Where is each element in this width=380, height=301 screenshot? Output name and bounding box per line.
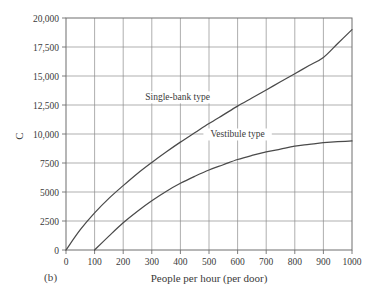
- x-tick-label: 400: [173, 257, 188, 267]
- chart-svg: 025005000750010,00012,50015,00017,50020,…: [0, 0, 380, 301]
- y-tick-label: 5000: [40, 188, 59, 198]
- y-tick-labels: 025005000750010,00012,50015,00017,50020,…: [33, 14, 59, 256]
- y-tick-label: 10,000: [33, 130, 59, 140]
- x-tick-label: 500: [202, 257, 217, 267]
- data-curve: [95, 141, 352, 250]
- curve-annotation-label: Vestibule type: [211, 129, 265, 139]
- y-tick-label: 20,000: [33, 14, 59, 24]
- y-tick-label: 17,500: [33, 43, 59, 53]
- x-tick-label: 700: [259, 257, 274, 267]
- x-tick-label: 800: [288, 257, 303, 267]
- y-tick-label: 15,000: [33, 72, 59, 82]
- x-tick-label: 200: [116, 257, 131, 267]
- x-tick-label: 1000: [343, 257, 362, 267]
- y-axis-title: C: [13, 125, 25, 147]
- x-axis-title: People per hour (per door): [66, 272, 352, 284]
- x-tick-label: 100: [87, 257, 102, 267]
- y-tick-label: 2500: [40, 217, 59, 227]
- y-tick-label: 0: [54, 246, 59, 256]
- y-tick-label: 12,500: [33, 101, 59, 111]
- panel-label: (b): [44, 271, 57, 283]
- x-tick-label: 900: [316, 257, 331, 267]
- figure-container: 025005000750010,00012,50015,00017,50020,…: [0, 0, 380, 301]
- x-tick-label: 0: [64, 257, 69, 267]
- x-tick-labels: 01002003004005006007008009001000: [64, 257, 362, 267]
- x-tick-label: 300: [145, 257, 160, 267]
- curve-annotation-label: Single-bank type: [145, 92, 210, 102]
- y-tick-label: 7500: [40, 159, 59, 169]
- x-tick-label: 600: [230, 257, 245, 267]
